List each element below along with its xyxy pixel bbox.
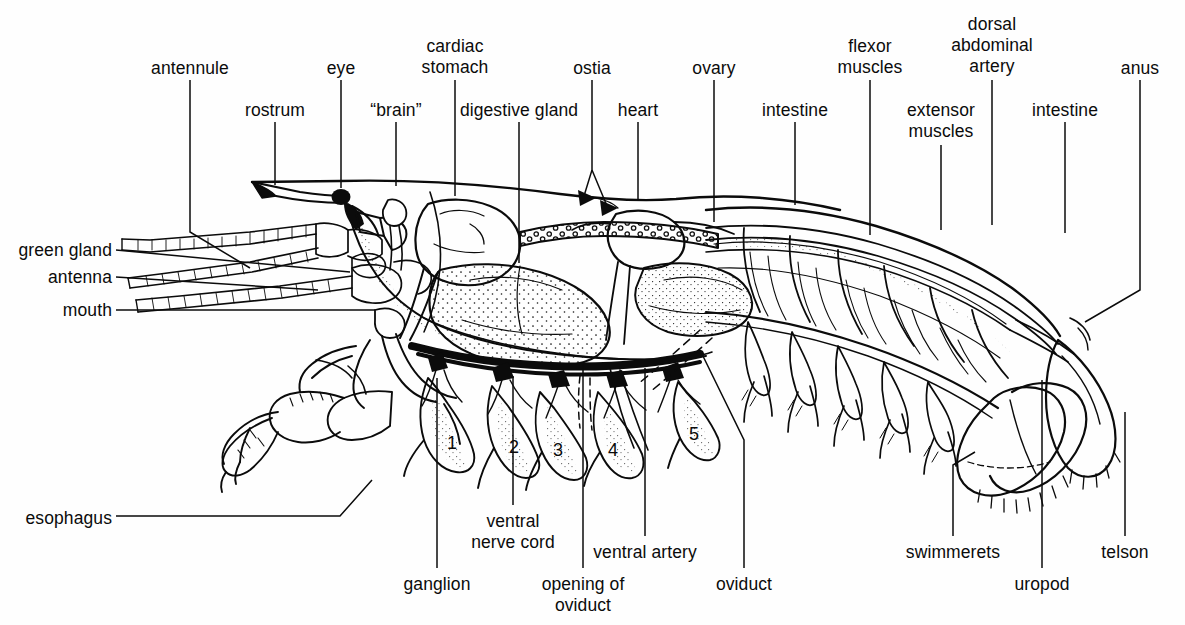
label-intestine-posterior: intestine xyxy=(1032,100,1098,121)
label-antennule: antennule xyxy=(151,58,229,79)
label-intestine-anterior: intestine xyxy=(762,100,828,121)
label-heart: heart xyxy=(618,100,658,121)
label-extensor-muscles: extensor muscles xyxy=(907,100,975,142)
label-opening-of-oviduct: opening of oviduct xyxy=(542,574,625,616)
label-oviduct: oviduct xyxy=(716,574,772,595)
label-dorsal-abdominal-artery: dorsal abdominal artery xyxy=(951,14,1033,77)
label-green-gland: green gland xyxy=(18,240,112,261)
label-brain: “brain” xyxy=(370,100,421,121)
label-telson: telson xyxy=(1101,542,1148,563)
crayfish-anatomy-figure: antennulerostrumeye“brain”cardiac stomac… xyxy=(0,0,1185,625)
label-digestive-gland: digestive gland xyxy=(460,100,578,121)
label-ventral-nerve-cord: ventral nerve cord xyxy=(471,511,555,553)
segment-number-leg-3: 3 xyxy=(553,440,563,461)
segment-number-leg-2: 2 xyxy=(509,437,519,458)
crayfish-illustration xyxy=(0,0,1185,625)
label-ganglion: ganglion xyxy=(404,574,471,595)
label-cardiac-stomach: cardiac stomach xyxy=(422,36,489,78)
label-uropod: uropod xyxy=(1014,574,1069,595)
label-ovary: ovary xyxy=(692,58,735,79)
segment-number-leg-4: 4 xyxy=(608,440,618,461)
label-ostia: ostia xyxy=(573,58,610,79)
segment-number-leg-1: 1 xyxy=(447,433,457,454)
label-flexor-muscles: flexor muscles xyxy=(838,36,903,78)
label-swimmerets: swimmerets xyxy=(906,542,1000,563)
label-ventral-artery: ventral artery xyxy=(593,542,697,563)
label-antenna: antenna xyxy=(48,267,112,288)
label-mouth: mouth xyxy=(63,300,112,321)
label-rostrum: rostrum xyxy=(245,100,305,121)
label-eye: eye xyxy=(327,58,356,79)
label-esophagus: esophagus xyxy=(25,508,112,529)
segment-number-leg-5: 5 xyxy=(689,424,699,445)
label-anus: anus xyxy=(1121,58,1159,79)
